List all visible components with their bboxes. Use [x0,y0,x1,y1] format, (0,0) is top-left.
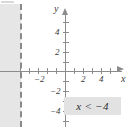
x-tick-label-4: 4 [99,75,104,84]
x-tick-label-2: 2 [81,75,86,84]
inequality-graph-figure: −2 2 4 4 2 −2 −4 y x x < −4 [0,0,132,134]
y-tick-5 [63,22,69,23]
boundary-dashed-line [20,4,22,127]
y-tick-2 [63,52,69,53]
x-tick-minus6 [20,68,21,74]
y-axis-arrow-icon [62,8,68,15]
x-tick-5 [110,68,111,74]
scan-artifact [1,1,14,3]
y-tick-minus5 [63,121,69,122]
x-axis-line [0,71,122,72]
y-tick-1 [63,62,69,63]
y-axis-label: y [54,4,58,14]
y-tick-4 [63,32,69,33]
x-axis-label: x [121,74,125,84]
x-axis-arrow-icon [117,66,124,72]
x-tick-3 [92,68,93,74]
x-tick-minus5 [29,68,30,74]
x-tick-minus3 [47,68,48,74]
y-tick-3 [63,42,69,43]
inequality-caption: x < −4 [64,97,121,115]
x-tick-1 [74,68,75,74]
y-tick-label-4: 4 [55,28,60,37]
y-tick-minus2 [63,91,69,92]
y-tick-label-minus4: −4 [50,107,61,116]
x-tick-label-minus2: −2 [34,75,45,84]
solution-region-shading [0,4,21,127]
x-tick-minus2 [56,68,57,74]
y-tick-label-minus2: −2 [50,87,61,96]
y-tick-minus1 [63,81,69,82]
y-tick-label-2: 2 [55,48,60,57]
